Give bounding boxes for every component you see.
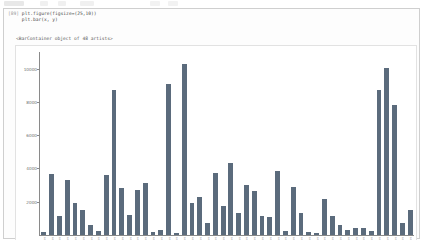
bar xyxy=(135,190,140,235)
page-bottom-strip xyxy=(0,240,424,247)
y-tick-mark xyxy=(37,69,39,70)
toolbar-chip-3 xyxy=(58,1,66,6)
bar xyxy=(299,213,304,235)
bar xyxy=(330,216,335,235)
bar xyxy=(213,173,218,235)
bar xyxy=(49,174,54,235)
toolbar-chip-4 xyxy=(80,1,94,6)
matplotlib-figure: 200040006000800010000 cat-01cat-02cat-03… xyxy=(15,45,417,243)
bar xyxy=(252,191,257,235)
bar xyxy=(127,215,132,235)
bar xyxy=(57,216,62,235)
y-tick-label: 6000 xyxy=(26,133,37,138)
toolbar-chip-1 xyxy=(4,1,24,6)
notebook-toolbar xyxy=(0,0,424,8)
bar xyxy=(291,187,296,235)
bar xyxy=(392,105,397,235)
bar xyxy=(158,230,163,235)
code-line-2: plt.bar(x, y) xyxy=(22,17,58,22)
y-tick-label: 2000 xyxy=(26,199,37,204)
bar xyxy=(408,210,413,235)
bar xyxy=(283,231,288,235)
bar xyxy=(80,210,85,235)
toolbar-chip-2 xyxy=(40,1,48,6)
screenshot-root: [89] plt.figure(figsize=(25,10)) [89] pl… xyxy=(0,0,424,247)
bar xyxy=(228,163,233,235)
bar xyxy=(104,175,109,235)
bar xyxy=(41,232,46,235)
notebook-code-cell[interactable]: [89] plt.figure(figsize=(25,10)) [89] pl… xyxy=(3,8,420,239)
bar xyxy=(338,225,343,235)
code-line-1: plt.figure(figsize=(25,10)) xyxy=(22,11,97,16)
bar xyxy=(205,223,210,235)
y-tick-label: 4000 xyxy=(26,166,37,171)
bar xyxy=(112,90,117,235)
toolbar-chip-6 xyxy=(168,1,178,6)
bar xyxy=(65,180,70,235)
bar xyxy=(260,216,265,235)
bar xyxy=(221,206,226,235)
bar xyxy=(369,231,374,235)
bar xyxy=(197,197,202,235)
bar xyxy=(151,232,156,235)
bar xyxy=(236,213,241,235)
cell-output-text: <BarContainer object of 48 artists> xyxy=(16,36,411,42)
bar xyxy=(275,171,280,235)
bar xyxy=(174,233,179,235)
bar xyxy=(96,231,101,235)
toolbar-chip-5 xyxy=(150,1,160,6)
bar xyxy=(73,203,78,235)
bar xyxy=(400,223,405,235)
bar xyxy=(119,188,124,235)
bar xyxy=(267,217,272,235)
bar xyxy=(244,185,249,235)
bar-chart-plot: 200040006000800010000 cat-01cat-02cat-03… xyxy=(16,46,418,244)
bar xyxy=(143,183,148,235)
bar xyxy=(361,228,366,235)
x-axis-line xyxy=(39,235,414,236)
cell-prompt-label: [89] xyxy=(8,11,19,16)
bar xyxy=(88,225,93,235)
code-editor[interactable]: [89] plt.figure(figsize=(25,10)) [89] pl… xyxy=(8,11,413,23)
bar xyxy=(314,233,319,235)
bar xyxy=(182,64,187,235)
bar-series xyxy=(40,52,414,235)
bar xyxy=(377,90,382,235)
y-tick-label: 10000 xyxy=(24,66,37,71)
y-tick-label: 8000 xyxy=(26,99,37,104)
bar xyxy=(384,68,389,235)
bar xyxy=(322,199,327,235)
bar xyxy=(190,203,195,235)
bar xyxy=(306,232,311,235)
bar xyxy=(345,230,350,235)
bar xyxy=(166,84,171,235)
bar xyxy=(353,228,358,235)
